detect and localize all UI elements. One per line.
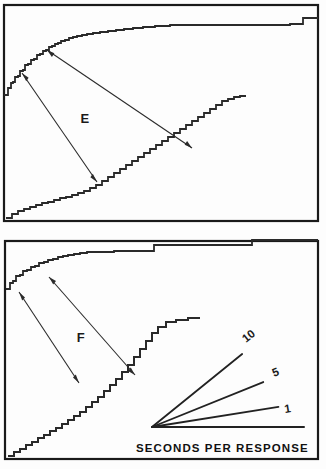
- legend-caption: SECONDS PER RESPONSE: [136, 442, 309, 454]
- cumulative-record-figure: E F 10 5 1 SECONDS: [0, 0, 326, 469]
- panel-e-letter: E: [80, 111, 89, 126]
- figure-background: [0, 0, 326, 469]
- panel-f-letter: F: [77, 330, 85, 345]
